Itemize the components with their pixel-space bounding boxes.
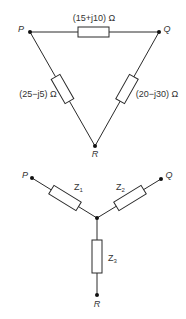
impedance-pq [78, 27, 109, 37]
star-node-r-label: R [94, 299, 101, 309]
impedance-pr-label: (25−j5) Ω [19, 89, 57, 99]
delta-node-r-label: R [92, 149, 99, 159]
delta-node-r [93, 144, 97, 148]
impedance-z2-label: Z2 [116, 182, 126, 193]
star-node-r [95, 293, 99, 297]
impedance-z1-label: Z1 [74, 182, 84, 193]
impedance-qr-label: (20−j30) Ω [136, 89, 179, 99]
delta-node-p [28, 30, 32, 34]
star-node-q-label: Q [165, 170, 172, 180]
star-node-center [95, 216, 99, 220]
star-node-p-label: P [22, 170, 28, 180]
delta-node-q-label: Q [163, 24, 170, 34]
impedance-z3-label: Z3 [108, 253, 118, 264]
circuit-diagram: (15+j10) Ω (25−j5) Ω (20−j30) Ω P Q R Z1 [0, 0, 186, 319]
delta-node-q [157, 30, 161, 34]
impedance-z3 [92, 240, 102, 273]
impedance-pq-label: (15+j10) Ω [73, 13, 116, 23]
star-network: Z1 Z2 Z3 P Q R [22, 170, 173, 309]
delta-network: (15+j10) Ω (25−j5) Ω (20−j30) Ω P Q R [18, 13, 179, 159]
star-node-q [159, 177, 163, 181]
star-node-p [30, 176, 34, 180]
delta-node-p-label: P [18, 24, 24, 34]
